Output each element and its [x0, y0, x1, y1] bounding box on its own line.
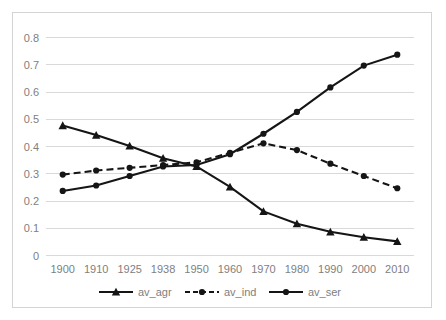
data-point-av_ser-1990 — [327, 84, 333, 90]
data-point-av_agr-1900 — [59, 121, 67, 129]
line-chart: 00.10.20.30.40.50.60.70.8190019101925193… — [13, 13, 431, 307]
y-axis-tick-label: 0.5 — [24, 113, 39, 125]
data-point-av_ind-1900 — [60, 172, 66, 178]
legend-item-av_agr[interactable]: av_agr — [99, 286, 172, 298]
x-axis-tick-label: 1900 — [50, 263, 74, 275]
data-point-av_ser-1900 — [60, 188, 66, 194]
data-point-av_ind-1910 — [93, 167, 99, 173]
data-point-av_ind-2010 — [394, 185, 400, 191]
legend-marker-av_ind — [199, 289, 205, 295]
legend-marker-av_ser — [283, 289, 289, 295]
data-point-av_ser-1980 — [294, 109, 300, 115]
y-axis-tick-label: 0.8 — [24, 32, 39, 44]
x-axis-tick-label: 1970 — [251, 263, 275, 275]
x-axis-tick-label: 2000 — [352, 263, 376, 275]
data-point-av_ind-2000 — [361, 173, 367, 179]
data-point-av_ind-1970 — [260, 140, 266, 146]
y-axis-tick-label: 0.2 — [24, 195, 39, 207]
legend-label-av_ind: av_ind — [224, 286, 256, 298]
x-axis-tick-label: 1960 — [218, 263, 242, 275]
x-axis-tick-label: 1925 — [117, 263, 141, 275]
legend-item-av_ind[interactable]: av_ind — [185, 286, 256, 298]
y-axis-tick-label: 0.7 — [24, 59, 39, 71]
data-point-av_ser-1910 — [93, 182, 99, 188]
x-axis-tick-label: 1980 — [285, 263, 309, 275]
data-point-av_ser-1925 — [127, 173, 133, 179]
x-axis-tick-label: 1950 — [184, 263, 208, 275]
data-point-av_ind-1980 — [294, 147, 300, 153]
legend-label-av_ser: av_ser — [308, 286, 341, 298]
x-axis-tick-label: 1910 — [84, 263, 108, 275]
chart-container: 00.10.20.30.40.50.60.70.8190019101925193… — [12, 12, 432, 308]
x-axis-tick-label: 2010 — [385, 263, 409, 275]
data-point-av_ind-1925 — [127, 165, 133, 171]
data-point-av_ser-1970 — [260, 131, 266, 137]
y-axis-tick-label: 0.1 — [24, 222, 39, 234]
y-axis-tick-label: 0.4 — [24, 141, 39, 153]
data-point-av_ser-2000 — [361, 63, 367, 69]
y-axis-tick-label: 0.3 — [24, 168, 39, 180]
y-axis-tick-label: 0.6 — [24, 86, 39, 98]
data-point-av_agr-1960 — [226, 183, 234, 191]
data-point-av_ser-1960 — [227, 151, 233, 157]
data-point-av_ser-1950 — [193, 162, 199, 168]
x-axis-tick-label: 1990 — [318, 263, 342, 275]
legend-label-av_agr: av_agr — [138, 286, 172, 298]
data-point-av_ind-1990 — [327, 161, 333, 167]
y-axis-tick-label: 0 — [33, 250, 39, 262]
data-point-av_ser-2010 — [394, 52, 400, 58]
legend-item-av_ser[interactable]: av_ser — [269, 286, 341, 298]
x-axis-tick-label: 1938 — [151, 263, 175, 275]
data-point-av_ser-1938 — [160, 163, 166, 169]
